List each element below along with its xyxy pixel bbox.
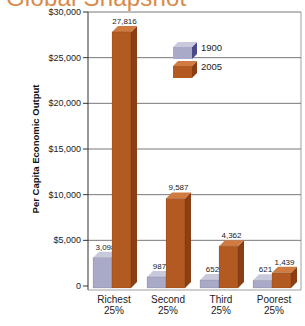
value-label: 652 bbox=[206, 265, 220, 274]
value-label: 9,587 bbox=[168, 183, 189, 192]
legend-item-1900: 1900 bbox=[173, 42, 222, 59]
value-label: 987 bbox=[153, 262, 167, 271]
bar-2005: 1,439 bbox=[272, 258, 297, 288]
bar-2005: 9,587 bbox=[166, 183, 191, 288]
value-label: 4,362 bbox=[221, 231, 242, 240]
value-label: 1,439 bbox=[274, 258, 295, 267]
category-label: Second25% bbox=[151, 294, 185, 316]
category-label: Richest25% bbox=[97, 294, 131, 316]
y-tick-label: $10,000 bbox=[48, 190, 81, 200]
y-tick-label: $25,000 bbox=[48, 53, 81, 63]
value-label: 27,816 bbox=[112, 17, 137, 26]
category-label: Poorest25% bbox=[257, 294, 292, 316]
y-axis-ticks: 0$5,000$10,000$15,000$20,000$25,000$30,0… bbox=[48, 7, 88, 291]
legend: 19002005 bbox=[173, 42, 222, 78]
y-tick-label: $5,000 bbox=[53, 235, 81, 245]
bar-chart: 0$5,000$10,000$15,000$20,000$25,000$30,0… bbox=[0, 0, 305, 326]
bar-2005: 4,362 bbox=[219, 231, 244, 288]
y-tick-label: $15,000 bbox=[48, 144, 81, 154]
y-axis-label: Per Capita Economic Output bbox=[30, 84, 41, 214]
legend-label: 2005 bbox=[201, 61, 222, 72]
value-label: 621 bbox=[259, 265, 273, 274]
category-label: Third25% bbox=[210, 294, 233, 316]
y-tick-label: $30,000 bbox=[48, 7, 81, 17]
y-tick-label: $20,000 bbox=[48, 98, 81, 108]
bar-2005: 27,816 bbox=[112, 17, 137, 288]
x-axis-categories: Richest25%Second25%Third25%Poorest25% bbox=[97, 294, 291, 316]
y-tick-label: 0 bbox=[76, 281, 81, 291]
legend-item-2005: 2005 bbox=[173, 61, 222, 78]
legend-label: 1900 bbox=[201, 42, 222, 53]
